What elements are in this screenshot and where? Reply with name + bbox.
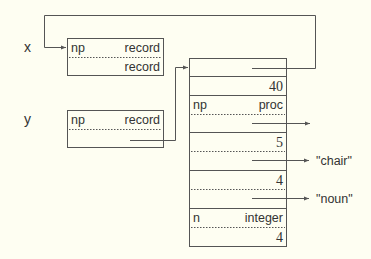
var-label-x: x	[24, 39, 31, 55]
box-x-type: record	[125, 41, 160, 55]
memory-label-n: n	[193, 211, 200, 225]
box-x-value: record	[125, 60, 160, 74]
var-label-y: y	[24, 111, 31, 127]
string-noun: "noun"	[316, 192, 353, 206]
memory-label-np: np	[193, 98, 207, 112]
memory-diagram: x y np record record np record 40 np pro…	[0, 0, 371, 259]
box-y-label-left: np	[71, 113, 85, 127]
box-x: np record record	[68, 39, 164, 76]
memory-type-integer: integer	[245, 211, 283, 225]
memory-type-proc: proc	[259, 98, 283, 112]
box-x-label-left: np	[71, 41, 85, 55]
memory-value-5: 5	[276, 135, 283, 150]
string-chair: "chair"	[316, 154, 352, 168]
box-y: np record	[68, 111, 164, 148]
memory-value-4: 4	[276, 173, 283, 188]
memory-value-40: 40	[269, 79, 283, 94]
memory-column: 40 np proc 5 4 n integer 4	[190, 59, 287, 247]
box-y-type: record	[125, 113, 160, 127]
memory-value-n: 4	[276, 230, 283, 245]
pointer-arrow-to-x	[45, 16, 316, 69]
